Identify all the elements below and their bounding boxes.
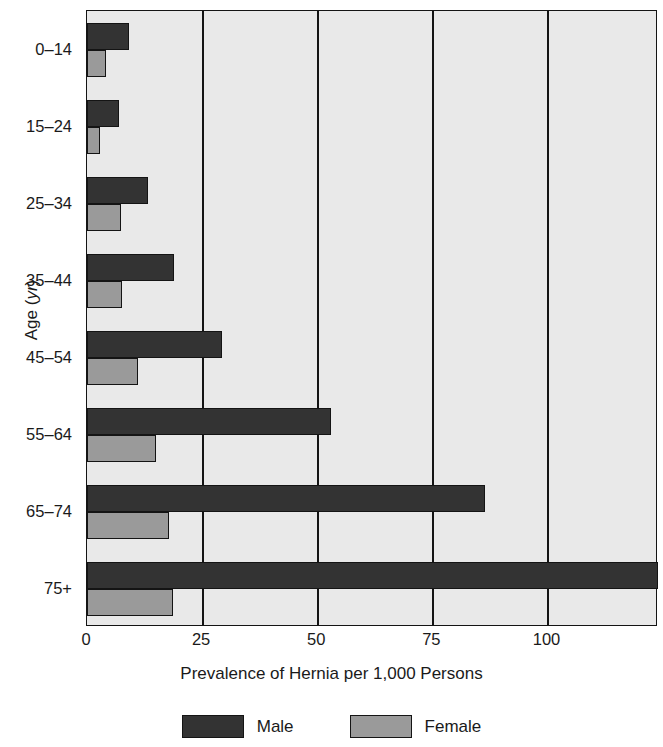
gridline-50 [317, 11, 318, 625]
plot-area [86, 10, 657, 626]
legend-entry-male: Male [182, 715, 294, 738]
y-tick-label-25–34: 25–34 [26, 195, 72, 212]
bar-female-0–14 [87, 50, 106, 77]
bar-female-35–44 [87, 281, 122, 308]
y-tick-label-75plus: 75+ [44, 580, 72, 597]
bar-female-75plus [87, 589, 173, 616]
bar-female-65–74 [87, 512, 169, 539]
bar-male-0–14 [87, 23, 129, 50]
y-tick-label-45–54: 45–54 [26, 349, 72, 366]
bar-female-55–64 [87, 435, 156, 462]
x-tick-label-75: 75 [422, 631, 440, 648]
bar-female-45–54 [87, 358, 138, 385]
bar-male-25–34 [87, 177, 148, 204]
bar-male-65–74 [87, 485, 485, 512]
bar-male-55–64 [87, 408, 331, 435]
y-tick-label-55–64: 55–64 [26, 426, 72, 443]
gridline-100 [547, 11, 548, 625]
y-tick-label-15–24: 15–24 [26, 118, 72, 135]
legend-swatch-male [182, 715, 244, 738]
bar-female-25–34 [87, 204, 121, 231]
x-tick-label-0: 0 [81, 631, 90, 648]
gridline-25 [202, 11, 203, 625]
legend-entry-female: Female [350, 715, 482, 738]
chart-legend: MaleFemale [0, 715, 663, 738]
x-axis-tick-labels: 0255075100 [86, 631, 657, 653]
gridline-75 [432, 11, 433, 625]
bar-female-15–24 [87, 127, 100, 154]
x-tick-label-25: 25 [192, 631, 210, 648]
x-axis-title: Prevalence of Hernia per 1,000 Persons [0, 664, 663, 684]
legend-label-male: Male [257, 718, 294, 735]
legend-label-female: Female [425, 718, 482, 735]
bar-male-45–54 [87, 331, 222, 358]
hernia-prevalence-chart: Age (yr) 0–1415–2425–3435–4445–5455–6465… [0, 0, 663, 747]
x-tick-label-100: 100 [533, 631, 561, 648]
y-tick-label-65–74: 65–74 [26, 503, 72, 520]
y-tick-label-35–44: 35–44 [26, 272, 72, 289]
bar-male-15–24 [87, 100, 119, 127]
bar-male-35–44 [87, 254, 174, 281]
legend-swatch-female [350, 715, 412, 738]
x-tick-label-50: 50 [307, 631, 325, 648]
bar-male-75plus [87, 562, 658, 589]
y-tick-label-0–14: 0–14 [35, 41, 72, 58]
y-axis-tick-labels: 0–1415–2425–3435–4445–5455–6465–7475+ [0, 10, 80, 626]
